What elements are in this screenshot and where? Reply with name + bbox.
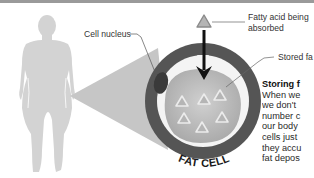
- side-heading: Storing f: [262, 79, 314, 90]
- side-text-block: Storing f When we we don't number c our …: [262, 79, 314, 164]
- side-line: they accu: [262, 143, 314, 154]
- label-fatty-acid-line2: absorbed: [248, 23, 284, 33]
- human-silhouette-icon: [19, 15, 75, 172]
- side-line: cells just: [262, 132, 314, 143]
- side-line: number c: [262, 111, 314, 122]
- side-line: we don't: [262, 100, 314, 111]
- fatty-acid-triangle-icon: [197, 15, 211, 27]
- label-fatty-acid-line1: Fatty acid being: [248, 12, 309, 22]
- side-line: fat depos: [262, 153, 314, 164]
- side-line: our body: [262, 121, 314, 132]
- side-line: When we: [262, 90, 314, 101]
- label-cell-nucleus: Cell nucleus: [84, 29, 131, 39]
- label-stored-fat: Stored fa: [278, 52, 313, 62]
